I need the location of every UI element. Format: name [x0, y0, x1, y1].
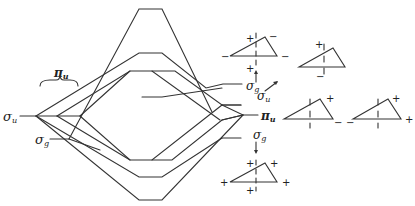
- sign-plus: +: [246, 185, 254, 196]
- sign-plus: +: [315, 39, 323, 50]
- sign-minus: −: [334, 117, 342, 128]
- second-plateau-line: [36, 53, 242, 116]
- arrow-up-head-icon: [254, 70, 258, 74]
- sign-plus: +: [246, 33, 254, 44]
- third-plateau-line-b: [152, 71, 241, 105]
- sign-plus: +: [246, 63, 254, 74]
- sign-minus: −: [316, 71, 324, 82]
- correlation-lines: [36, 9, 243, 200]
- sign-plus: +: [392, 93, 400, 104]
- left-sigma-g-label: σg: [35, 132, 49, 148]
- right-pi-u-label: πu: [260, 109, 276, 124]
- triangle-shape: [299, 48, 345, 67]
- sign-plus: +: [246, 158, 254, 169]
- sign-plus: +: [220, 177, 228, 188]
- right-sigma-g-bottom-label: σg: [253, 128, 266, 143]
- pi-u-sketch-1: + −: [284, 93, 342, 128]
- lower-plateau-line-a2: [57, 116, 130, 160]
- sign-plus: +: [405, 114, 413, 125]
- sign-minus: −: [269, 31, 277, 42]
- sigma-g-branch: [69, 139, 100, 150]
- fifth-plateau-line: [36, 116, 222, 177]
- left-sigma-u-label: σu: [3, 109, 17, 125]
- sign-plus: +: [326, 93, 334, 104]
- third-plateau-line-a2: [80, 71, 130, 116]
- sign-plus: +: [282, 177, 290, 188]
- sign-plus: +: [270, 158, 278, 169]
- arrow-down-head-icon: [254, 150, 258, 154]
- right-pi-u-level: [222, 105, 258, 115]
- sigma-g-bottom-sketch: + + + + +: [220, 158, 290, 196]
- top-plateau-line: [69, 9, 212, 139]
- sigma-u-sketch: + −: [299, 39, 345, 82]
- sign-minus: −: [281, 51, 289, 62]
- mo-correlation-diagram: σu σg πu σg σu πu σg + − − − + + − + −: [0, 0, 415, 206]
- right-sigma-u-label: σu: [257, 89, 270, 104]
- sign-minus: −: [221, 51, 229, 62]
- pi-u-sketch-2: + − +: [346, 93, 413, 128]
- right-join: [222, 115, 243, 120]
- sign-minus: −: [346, 117, 354, 128]
- sigma-g-top-sketch: + − − − +: [221, 31, 289, 74]
